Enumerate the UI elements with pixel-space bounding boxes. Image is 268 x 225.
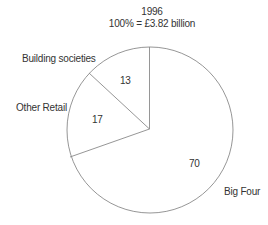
value-building-societies: 13 bbox=[120, 75, 131, 86]
pie-chart: 1996 100% = £3.82 billion Building socie… bbox=[0, 0, 268, 225]
pie-outline bbox=[67, 47, 233, 213]
label-big-four: Big Four bbox=[224, 186, 260, 197]
value-big-four: 70 bbox=[189, 158, 200, 169]
value-other-retail: 17 bbox=[92, 114, 103, 125]
label-other-retail: Other Retail bbox=[16, 102, 67, 113]
label-building-societies: Building societies bbox=[22, 53, 96, 64]
